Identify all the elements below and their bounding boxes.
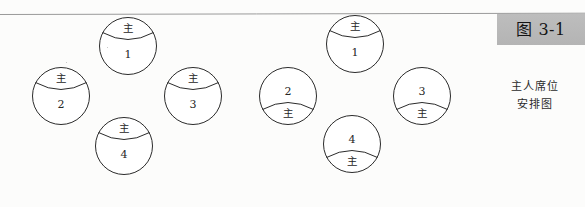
- figure-label: 图 3-1: [497, 14, 585, 45]
- seat-circle-left-arrangement-1: 主1: [98, 16, 158, 76]
- seat-number-label: 4: [322, 134, 382, 145]
- host-marker-label: 主: [258, 108, 318, 119]
- figure-caption-line-2: 安排图: [487, 95, 583, 111]
- figure-caption-panel: 图 3-1 主人席位 安排图: [485, 0, 585, 207]
- seat-circle-left-arrangement-4: 主4: [94, 116, 154, 176]
- scan-speck: [107, 47, 108, 48]
- seat-circle-left-arrangement-3: 主3: [163, 66, 223, 126]
- seating-diagram: 主1主2主3主4主1主2主3主4: [0, 0, 490, 207]
- figure-caption-line-1: 主人席位: [487, 77, 583, 93]
- seat-number-label: 1: [325, 47, 385, 58]
- seat-number-label: 3: [392, 86, 452, 97]
- host-marker-label: 主: [392, 108, 452, 119]
- seat-circle-right-arrangement-2: 主2: [258, 66, 318, 126]
- host-marker-label: 主: [325, 21, 385, 32]
- host-marker-label: 主: [163, 73, 223, 84]
- seat-number-label: 3: [163, 99, 223, 110]
- seat-number-label: 4: [94, 149, 154, 160]
- seat-number-label: 2: [258, 86, 318, 97]
- seat-circle-left-arrangement-2: 主2: [31, 66, 91, 126]
- seat-circle-right-arrangement-3: 主3: [392, 66, 452, 126]
- host-marker-label: 主: [94, 123, 154, 134]
- seat-number-label: 1: [98, 49, 158, 60]
- host-marker-label: 主: [322, 156, 382, 167]
- host-marker-label: 主: [31, 73, 91, 84]
- seat-circle-right-arrangement-1: 主1: [325, 14, 385, 74]
- host-marker-label: 主: [98, 23, 158, 34]
- seat-circle-right-arrangement-4: 主4: [322, 114, 382, 174]
- seat-number-label: 2: [31, 99, 91, 110]
- scan-speck: [66, 62, 67, 63]
